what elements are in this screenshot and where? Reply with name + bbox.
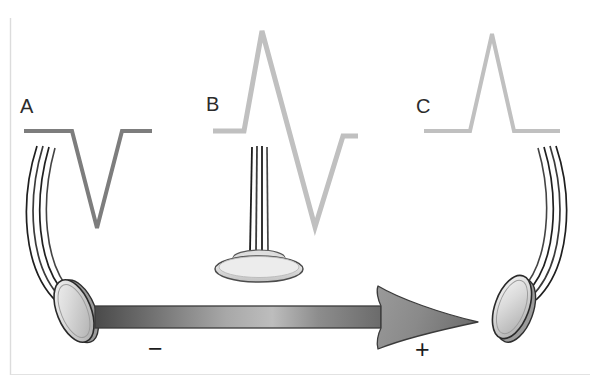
panel-label-a: A — [20, 95, 34, 117]
waveform-c — [424, 34, 560, 131]
cable-left — [26, 146, 72, 302]
panel-b — [213, 31, 358, 282]
panel-c: C — [416, 34, 567, 347]
positive-polarity-label: + — [415, 335, 430, 363]
electrode-center — [215, 250, 303, 282]
panel-label-c: C — [416, 95, 430, 117]
figure-root: A — [0, 0, 599, 383]
cable-center — [250, 146, 268, 252]
negative-polarity-label: − — [148, 334, 163, 362]
waveform-a — [24, 131, 152, 228]
electrode-waveform-diagram: A — [0, 0, 599, 383]
cable-right — [521, 146, 567, 300]
panel-label-b: B — [206, 93, 219, 115]
waveform-b — [213, 31, 358, 227]
